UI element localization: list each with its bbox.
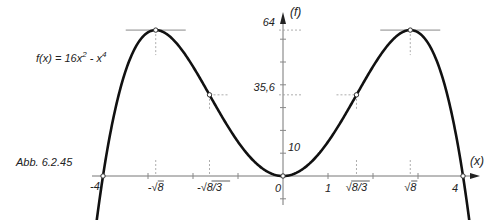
function-label: f(x) = 16x2 - x4 [36,50,107,64]
x-axis-arrow-icon [470,173,480,179]
y-tick-label: 10 [288,141,301,153]
x-tick-label: √8 [404,181,417,193]
x-tick-label: -4 [90,180,100,192]
svg-text:-√8: -√8 [148,181,165,193]
zero-point [101,174,105,178]
x-tick-label: √8/3 [346,181,370,193]
inflection-point [207,93,211,97]
y-tick-label: 64 [263,16,275,28]
y-axis-arrow-icon [280,12,286,24]
zero-point [461,174,465,178]
y-tick-label: 35,6 [254,81,276,93]
x-tick-label: -√8/3 [197,181,230,193]
x-tick-label: 0 [275,182,282,194]
y-axis-label: (f) [290,5,301,19]
tick-labels: -4-√8-√8/301√8/3√841035,664 [90,16,458,194]
x-axis-label: (x) [470,154,484,168]
svg-text:√8/3: √8/3 [346,181,368,193]
maximum-point [408,28,412,32]
function-plot: (x) (f) f(x) = 16x2 - x4 Abb. 6.2.45 -4-… [0,0,493,220]
svg-text:√8: √8 [404,181,417,193]
x-tick-label: -√8 [148,181,165,193]
svg-text:-√8/3: -√8/3 [197,181,223,193]
x-tick-label: 1 [325,182,331,194]
minimum-point [281,174,285,178]
maximum-point [154,28,158,32]
inflection-point [354,93,358,97]
figure-caption: Abb. 6.2.45 [15,156,73,168]
x-tick-label: 4 [452,182,458,194]
